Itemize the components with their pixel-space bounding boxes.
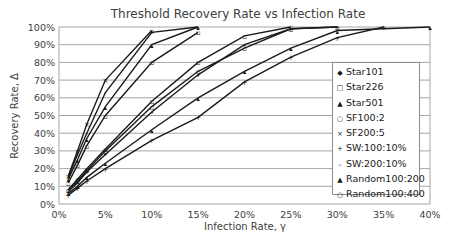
legend-item: ▲Star501 [336, 96, 416, 111]
x-tick-label: 5% [98, 209, 113, 220]
x-tick-label: 40% [419, 209, 440, 220]
y-tick-label: 60% [34, 92, 55, 103]
data-point-marker: ▴ [289, 45, 293, 53]
data-point-marker: + [149, 137, 155, 145]
data-point-marker: ▴ [243, 68, 247, 76]
y-tick-label: 80% [34, 57, 55, 68]
legend-marker-icon: ○ [336, 112, 344, 126]
legend-marker-icon: □ [336, 81, 344, 95]
legend-item: ◆Star101 [336, 65, 416, 80]
y-axis-label: Recovery Rate, Δ [9, 73, 20, 159]
legend-label: SF200:5 [346, 127, 385, 138]
legend-label: Star226 [346, 81, 384, 92]
y-tick-label: 100% [28, 22, 55, 33]
legend-item: ▲Random100:200 [336, 172, 416, 187]
y-tick-label: 90% [34, 39, 55, 50]
data-point-marker: ▴ [428, 24, 432, 32]
data-point-marker: ▴ [150, 42, 154, 50]
x-tick-label: 15% [188, 209, 209, 220]
legend-label: Star501 [346, 97, 384, 108]
data-point-marker: ▴ [150, 127, 154, 135]
legend-marker-icon: ▲ [336, 173, 344, 187]
y-tick-label: 0% [40, 199, 55, 210]
data-point-marker: × [102, 77, 108, 85]
data-point-marker: ▫ [149, 104, 154, 112]
y-tick-label: 70% [34, 75, 55, 86]
legend-item: □Star226 [336, 80, 416, 95]
chart-title: Threshold Recovery Rate vs Infection Rat… [110, 7, 366, 21]
x-axis-ticks: 0%5%10%15%20%25%30%35%40% [51, 209, 440, 220]
y-tick-label: 20% [34, 163, 55, 174]
data-point-marker: ▫ [103, 148, 108, 156]
legend-marker-icon: + [336, 142, 344, 156]
legend-item: ×SF200:5 [336, 126, 416, 141]
data-point-marker: ▫ [242, 33, 247, 41]
x-tick-label: 0% [51, 209, 66, 220]
data-point-marker: + [242, 79, 248, 87]
data-point-marker: ▫ [242, 45, 247, 53]
x-tick-label: 25% [280, 209, 301, 220]
data-point-marker: ▴ [104, 104, 108, 112]
legend-label: Star101 [346, 66, 384, 77]
y-tick-label: 50% [34, 110, 55, 121]
data-point-marker: ▴ [85, 174, 89, 182]
legend-label: SW:100:10% [346, 142, 407, 153]
data-point-marker: ▫ [149, 59, 154, 67]
data-point-marker: ▫ [84, 167, 89, 175]
legend-marker-icon: × [336, 127, 344, 141]
legend-marker-icon: – [336, 158, 344, 172]
legend-item: –SW:200:10% [336, 157, 416, 172]
data-point-marker: ▫ [196, 59, 201, 67]
data-point-marker: ▫ [103, 113, 108, 121]
data-point-marker: ▫ [335, 24, 340, 32]
series-line [68, 27, 337, 190]
legend: ◆Star101□Star226▲Star501○SF100:2×SF200:5… [332, 62, 420, 195]
data-point-marker: ▫ [66, 187, 71, 195]
legend-item: ○Random100:400 [336, 187, 416, 202]
legend-marker-icon: ▲ [336, 97, 344, 111]
data-point-marker: ▴ [196, 95, 200, 103]
y-axis-ticks: 0%10%20%30%40%50%60%70%80%90%100% [28, 22, 55, 210]
x-axis-label: Infection Rate, γ [204, 221, 286, 232]
data-point-marker: + [334, 35, 340, 43]
data-point-marker: + [288, 54, 294, 62]
legend-label: SF100:2 [346, 112, 385, 123]
x-tick-label: 20% [234, 209, 255, 220]
legend-label: SW:200:10% [346, 158, 407, 169]
legend-item: +SW:100:10% [336, 141, 416, 156]
legend-marker-icon: ○ [336, 188, 344, 202]
data-point-marker: ▫ [75, 178, 80, 186]
y-tick-label: 40% [34, 128, 55, 139]
legend-label: Random100:400 [346, 188, 425, 199]
data-point-marker: ▴ [104, 160, 108, 168]
y-tick-label: 30% [34, 145, 55, 156]
series-line [68, 32, 198, 183]
data-point-marker: + [195, 114, 201, 122]
x-tick-label: 35% [373, 209, 394, 220]
x-tick-label: 10% [141, 209, 162, 220]
legend-item: ○SF100:2 [336, 111, 416, 126]
legend-label: Random100:200 [346, 173, 425, 184]
legend-marker-icon: ◆ [336, 66, 344, 80]
data-point-marker: ▫ [289, 26, 294, 34]
x-tick-label: 30% [327, 209, 348, 220]
y-tick-label: 10% [34, 181, 55, 192]
data-point-marker: ▫ [196, 68, 201, 76]
